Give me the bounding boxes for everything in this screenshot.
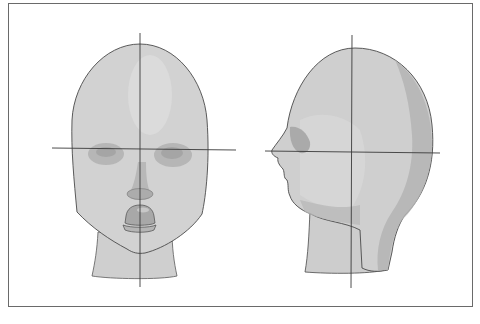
- profile-view-head: [265, 35, 440, 288]
- head-proportions-illustration: [0, 0, 480, 324]
- front-view-head: [52, 33, 236, 287]
